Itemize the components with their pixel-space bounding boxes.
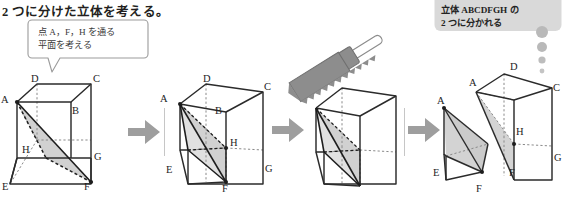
result-bubble-text: 立体 ABCDFGH の 2 つに分かれる [441, 4, 519, 29]
panel-4-vertex-E: E [433, 168, 439, 179]
result-line-1: 立体 ABCDFGH の [441, 4, 519, 17]
plane-hint-line-1: 点 A，F，H を通る [38, 26, 115, 39]
panel-4-vertex-F-body: F [509, 168, 515, 179]
panel-4-vertex-C: C [553, 83, 560, 94]
panel-1-vertex-F: F [84, 182, 90, 193]
plane-hint-bubble-text: 点 A，F，H を通る 平面を考える [38, 26, 115, 51]
panel-2-vertex-H: H [230, 138, 238, 149]
plane-hint-line-2: 平面を考える [38, 39, 115, 52]
panel-2-vertex-F: F [222, 184, 228, 195]
panel-2-vertex-G: G [265, 164, 273, 175]
panel-4-vertex-A-piece: A [437, 96, 445, 107]
panel-2-vertex-D: D [203, 74, 211, 85]
panel-4-vertex-A-body: A [469, 78, 477, 89]
divider-1 [164, 108, 165, 156]
panel-2-vertex-A: A [160, 94, 168, 105]
panel-1-vertex-A: A [1, 95, 9, 106]
arrow-2-to-3 [272, 116, 306, 146]
panel-4-vertex-F-piece: F [476, 184, 482, 195]
divider-2 [404, 108, 405, 156]
panel-1-vertex-G: G [94, 152, 102, 163]
panel-4-vertex-H: H [516, 127, 524, 138]
panel-4-detached-solid [430, 96, 520, 200]
panel-4-vertex-D: D [510, 62, 518, 73]
panel-1-cube [4, 72, 128, 196]
panel-4-vertex-G: G [554, 153, 562, 164]
panel-3-cube [306, 78, 412, 190]
arrow-1-to-2 [128, 118, 162, 148]
panel-1-vertex-D: D [31, 74, 39, 85]
panel-1-vertex-H: H [22, 145, 30, 156]
result-line-2: 2 つに分かれる [441, 17, 519, 30]
panel-1-vertex-C: C [93, 74, 100, 85]
panel-2-vertex-C: C [264, 82, 271, 93]
panel-1-vertex-B: B [72, 106, 79, 117]
panel-2-vertex-E: E [166, 165, 172, 176]
panel-2-vertex-B: B [215, 106, 222, 117]
slide-root: 2 つに分けた立体を考える。 点 A，F，H を通る 平面を考える 立体 ABC… [0, 0, 572, 200]
panel-1-vertex-E: E [2, 182, 8, 193]
